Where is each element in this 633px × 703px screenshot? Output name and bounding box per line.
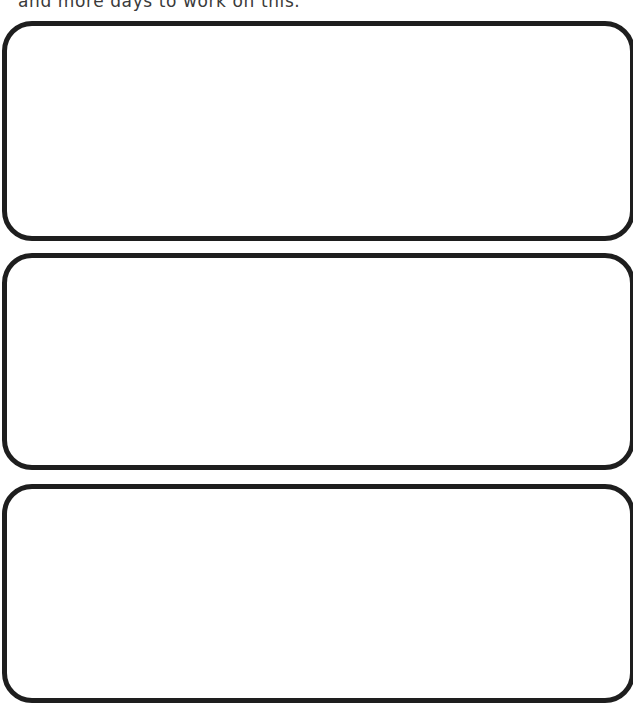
writing-box-3[interactable] xyxy=(2,484,633,703)
writing-box-1[interactable] xyxy=(2,21,633,241)
writing-box-2[interactable] xyxy=(2,253,633,470)
instruction-text: and more days to work on this. xyxy=(18,0,300,11)
